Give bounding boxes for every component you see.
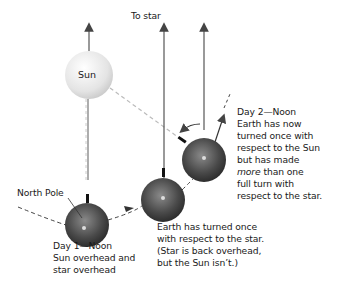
- orbit-arrow-icon: [124, 206, 134, 212]
- day2-emphasis: more: [237, 166, 261, 177]
- day2-sun-arrow-icon: [183, 124, 200, 130]
- day2-line3: turned once with: [237, 130, 313, 142]
- pole-marker-day2: [202, 156, 206, 160]
- north-pole-marker: [82, 226, 86, 230]
- middle-line3: (Star is back overhead,: [157, 245, 261, 257]
- day2-line4: respect to the Sun: [237, 142, 320, 154]
- middle-line2: with respect to the star.: [157, 233, 264, 245]
- day2-line6-rest: than one: [261, 166, 304, 177]
- observer-day2-icon: [178, 136, 187, 144]
- day2-line8: respect to the star.: [237, 190, 322, 202]
- sun-label: Sun: [78, 69, 96, 80]
- day1-line2: Sun overhead and: [53, 252, 135, 264]
- day2-line7: full turn with: [237, 178, 294, 190]
- day2-line6: more than one: [237, 166, 304, 178]
- day2-line2: Earth has now: [237, 118, 301, 130]
- pole-marker-middle: [161, 196, 165, 200]
- sun-to-day2-ray: [110, 88, 182, 140]
- observer-middle-icon: [162, 168, 165, 177]
- day2-line1: Day 2—Noon: [237, 106, 296, 118]
- day2-line5: but has made: [237, 154, 299, 166]
- middle-line1: Earth has turned once: [157, 221, 257, 233]
- day1-line3: star overhead: [53, 264, 116, 276]
- day2-axis-dashed: [224, 94, 230, 108]
- observer-day1-icon: [86, 194, 89, 203]
- day1-line1: Day 1—Noon: [53, 240, 112, 252]
- to-star-label: To star: [131, 10, 161, 22]
- north-pole-label: North Pole: [17, 187, 64, 199]
- middle-line4: but the Sun isn’t.): [157, 257, 238, 269]
